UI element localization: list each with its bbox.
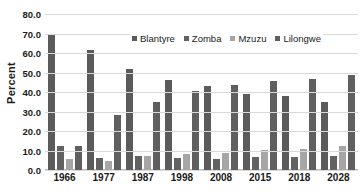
bar-blantyre-1977: [87, 50, 94, 170]
bar-mzuzu-1998: [183, 154, 190, 170]
legend-swatch-icon: [275, 36, 280, 41]
x-axis-tick-label-1977: 1977: [84, 172, 123, 183]
y-axis-tick-label: 30.0: [23, 106, 42, 117]
y-axis-tick-label: 80.0: [23, 9, 42, 20]
grid-line: 40.0: [45, 92, 358, 93]
grid-line: 10.0: [45, 151, 358, 152]
y-axis-title: Percent: [5, 51, 17, 115]
bar-blantyre-1987: [126, 69, 133, 170]
bar-lilongwe-1977: [114, 115, 121, 170]
bar-mzuzu-1966: [66, 159, 73, 170]
x-axis-tick-labels: 19661977198719982008201520182028: [45, 172, 358, 183]
legend-item-blantyre[interactable]: Blantyre: [132, 33, 175, 44]
bar-lilongwe-2008: [231, 85, 238, 170]
x-axis-tick-label-2008: 2008: [202, 172, 241, 183]
x-axis-tick-label-1998: 1998: [162, 172, 201, 183]
legend-swatch-icon: [132, 36, 137, 41]
legend-item-lilongwe[interactable]: Lilongwe: [275, 33, 321, 44]
x-axis-tick-label-2018: 2018: [280, 172, 319, 183]
bar-mzuzu-1987: [144, 156, 151, 170]
y-axis-tick-label: 70.0: [23, 28, 42, 39]
y-axis-tick-label: 20.0: [23, 126, 42, 137]
legend-label: Lilongwe: [283, 33, 321, 44]
bar-zomba-1987: [135, 156, 142, 170]
legend-label: Mzuzu: [238, 33, 266, 44]
grid-line: 50.0: [45, 73, 358, 74]
y-axis-tick-label: 50.0: [23, 67, 42, 78]
legend-item-mzuzu[interactable]: Mzuzu: [230, 33, 266, 44]
legend-item-zomba[interactable]: Zomba: [184, 33, 222, 44]
legend-label: Blantyre: [140, 33, 175, 44]
legend-swatch-icon: [230, 36, 235, 41]
bar-zomba-2018: [291, 157, 298, 170]
y-axis-tick-label: 10.0: [23, 145, 42, 156]
bar-mzuzu-1977: [105, 161, 112, 170]
x-axis-tick-label-2028: 2028: [319, 172, 358, 183]
bar-mzuzu-2008: [222, 153, 229, 170]
grid-line: 60.0: [45, 53, 358, 54]
bar-lilongwe-2028: [348, 75, 355, 170]
grid-line: 30.0: [45, 112, 358, 113]
grid-line: 0.0: [45, 170, 358, 171]
y-axis-tick-label: 0.0: [28, 165, 41, 176]
bar-zomba-1998: [174, 158, 181, 170]
legend-swatch-icon: [184, 36, 189, 41]
y-axis-tick-label: 60.0: [23, 48, 42, 59]
x-axis-tick-label-1966: 1966: [45, 172, 84, 183]
bar-zomba-2028: [330, 156, 337, 170]
bar-mzuzu-2015: [261, 150, 268, 170]
bar-lilongwe-2015: [270, 81, 277, 170]
bar-blantyre-1998: [165, 80, 172, 170]
bar-zomba-1977: [96, 158, 103, 170]
bar-zomba-2015: [252, 157, 259, 170]
bar-mzuzu-2018: [300, 149, 307, 170]
bar-blantyre-2018: [282, 96, 289, 170]
bar-blantyre-2008: [204, 86, 211, 170]
bar-chart: Percent 80.070.060.050.040.030.020.010.0…: [0, 0, 363, 196]
x-axis-tick-label-1987: 1987: [123, 172, 162, 183]
grid-line: 80.0: [45, 14, 358, 15]
x-axis-tick-label-2015: 2015: [241, 172, 280, 183]
y-axis-tick-label: 40.0: [23, 87, 42, 98]
grid-line: 20.0: [45, 131, 358, 132]
chart-legend: BlantyreZombaMzuzuLilongwe: [130, 32, 323, 45]
legend-label: Zomba: [192, 33, 222, 44]
bar-zomba-2008: [213, 159, 220, 171]
